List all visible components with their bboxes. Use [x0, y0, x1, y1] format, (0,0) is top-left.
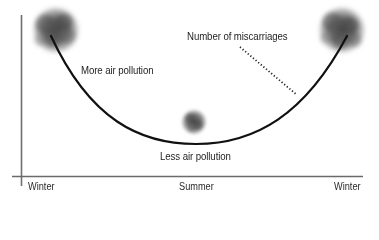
smog-cloud-icon-middle	[181, 109, 207, 135]
x-tick-winter-start: Winter	[28, 181, 55, 192]
curve-leader-line	[240, 47, 297, 95]
x-tick-summer: Summer	[179, 181, 214, 192]
less-pollution-label: Less air pollution	[160, 150, 231, 162]
more-pollution-label: More air pollution	[81, 64, 153, 76]
curve-label: Number of miscarriages	[187, 30, 288, 42]
x-tick-winter-end: Winter	[334, 181, 361, 192]
